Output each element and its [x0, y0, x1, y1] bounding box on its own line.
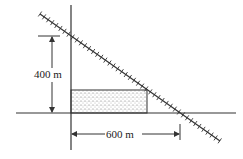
width-label: 600 m: [106, 128, 134, 140]
height-label: 400 m: [34, 68, 62, 80]
field-rectangle: [71, 90, 147, 113]
railroad-track: [38, 12, 221, 144]
diagram: 400 m 600 m: [0, 0, 243, 159]
